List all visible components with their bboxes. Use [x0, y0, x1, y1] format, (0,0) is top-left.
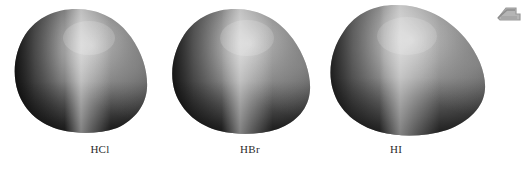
figure-canvas: HCl — [0, 0, 527, 169]
molecule-label-hbr: HBr — [210, 143, 290, 155]
electron-density-blob-hcl — [13, 8, 149, 134]
molecule-label-hcl: HCl — [60, 143, 140, 155]
molecule-surface-hcl — [13, 8, 149, 134]
electron-density-blob-hbr — [171, 8, 312, 136]
molecule-surface-hbr — [171, 8, 312, 136]
molecule-surface-hi — [329, 4, 487, 138]
electron-density-blob-hi — [329, 4, 487, 138]
molecule-label-hi: HI — [356, 143, 436, 155]
clipped-shape-artifact-icon — [496, 5, 522, 25]
